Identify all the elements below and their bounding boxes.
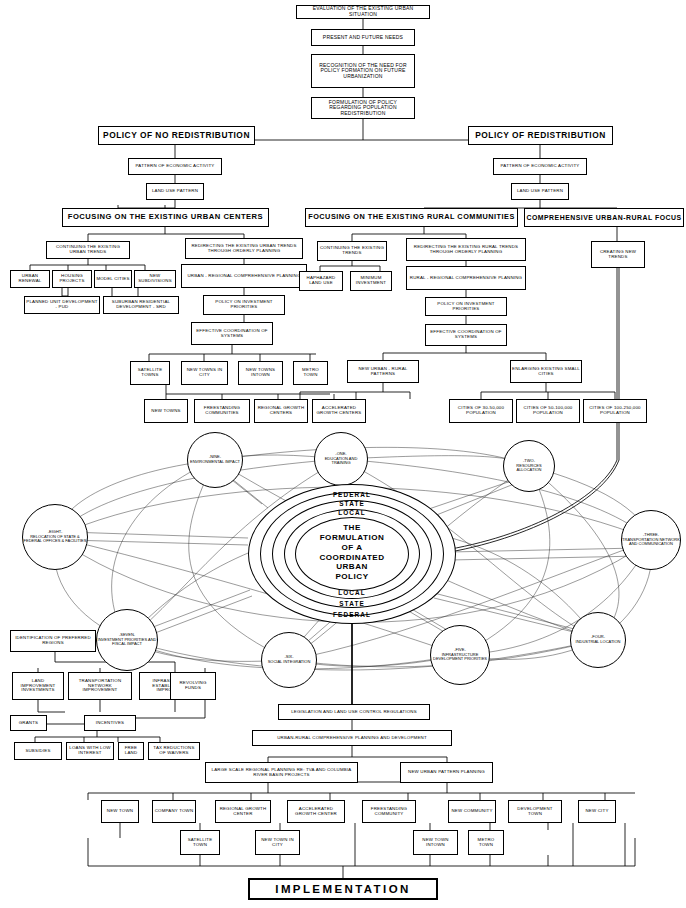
node-creating-new-trends: CREATING NEW TRENDS xyxy=(591,241,645,268)
node-new-towns-intown: NEW TOWNS INTOWN xyxy=(238,361,283,385)
core-label-federal-bottom: FEDERAL xyxy=(292,611,412,618)
node-metro-town: METRO TOWN xyxy=(293,361,328,385)
factor-six-label: SOCIAL INTEGRATION xyxy=(268,660,311,665)
core-title-line-3: OF A xyxy=(297,543,407,553)
core-label-state-top: STATE xyxy=(292,500,412,507)
node-tax-reductions-waivers: TAX REDUCTIONS OF WAIVERS xyxy=(148,742,200,760)
factor-eight-label: RELOCATION OF STATE & FEDERAL OFFICES & … xyxy=(23,535,87,545)
node-new-urban-pattern-planning: NEW URBAN PATTERN PLANNING xyxy=(400,762,493,783)
node-outcome-development-town: DEVELOPMENT TOWN xyxy=(508,800,562,823)
node-urban-renewal: URBAN RENEWAL xyxy=(10,270,50,288)
factor-nine-label: ENVIRONMENTAL IMPACT xyxy=(190,460,240,465)
node-suboutcome-new-town-intown: NEW TOWN INTOWN xyxy=(413,830,458,855)
node-rural-effective-coordination: EFFECTIVE COORDINATION OF SYSTEMS xyxy=(425,324,507,346)
factor-three-label: TRANSPORTATION NETWORK AND COMMUNICATION xyxy=(622,538,680,548)
node-rural-regional-planning: RURAL - REGIONAL COMPREHENSIVE PLANNING xyxy=(406,266,526,290)
node-redirecting-rural-trends: REDIRECTING THE EXISTING RURAL TRENDS TH… xyxy=(406,238,526,261)
node-urban-effective-coordination: EFFECTIVE COORDINATION OF SYSTEMS xyxy=(191,322,273,345)
factor-circle-seven: -SEVEN- INVESTMENT PRIORITIES AND FISCAL… xyxy=(96,609,158,671)
node-grants: GRANTS xyxy=(10,715,47,731)
node-outcome-regional-growth-center: REGIONAL GROWTH CENTER xyxy=(215,800,271,823)
node-accelerated-growth-centers: ACCELERATED GROWTH CENTERS xyxy=(312,399,366,423)
node-suboutcome-satellite-town: SATELLITE TOWN xyxy=(180,830,220,855)
node-recognition-need: RECOGNITION OF THE NEED FOR POLICY FORMA… xyxy=(311,54,415,88)
core-title-line-2: FORMULATION xyxy=(297,533,407,543)
node-pattern-economic-left: PATTERN OF ECONOMIC ACTIVITY xyxy=(128,158,222,175)
node-cities-50-100k: CITIES OF 50-100,000 POPULATION xyxy=(516,399,580,423)
core-title-line-6: POLICY xyxy=(297,572,407,582)
factor-four-label: INDUSTRIAL LOCATION xyxy=(576,640,621,645)
node-rural-policy-investment: POLICY ON INVESTMENT PRIORITIES xyxy=(425,297,507,316)
node-continuing-rural-trends: CONTINUING THE EXISTING TRENDS xyxy=(317,241,387,261)
node-new-towns: NEW TOWNS xyxy=(144,399,188,423)
node-identification-preferred-regions: IDENTIFICATION OF PREFERRED REGIONS xyxy=(10,630,96,652)
node-outcome-new-community: NEW COMMUNITY xyxy=(448,800,496,823)
factor-circle-nine: -NINE- ENVIRONMENTAL IMPACT xyxy=(187,432,243,488)
core-label-federal-top: FEDERAL xyxy=(292,491,412,498)
node-outcome-new-city: NEW CITY xyxy=(578,800,616,823)
node-legislation-land-use-control: LEGISLATION AND LAND USE CONTROL REGULAT… xyxy=(278,704,430,720)
node-free-land: FREE LAND xyxy=(118,742,144,760)
node-cities-30-50k: CITIES OF 30-50,000 POPULATION xyxy=(449,399,513,423)
node-policy-no-redistribution: POLICY OF NO REDISTRIBUTION xyxy=(98,126,255,145)
node-land-use-right: LAND USE PATTERN xyxy=(511,183,569,200)
node-revolving-funds: REVOLVING FUNDS xyxy=(170,672,216,700)
node-outcome-accelerated-growth-center: ACCELERATED GROWTH CENTER xyxy=(287,800,345,823)
node-urban-rural-comprehensive-planning: URBAN-RURAL COMPREHENSIVE PLANNING AND D… xyxy=(252,730,452,746)
node-policy-redistribution: POLICY OF REDISTRIBUTION xyxy=(468,126,613,145)
node-implementation: IMPLEMENTATION xyxy=(248,878,438,900)
node-model-cities: MODEL CITIES xyxy=(94,270,132,288)
node-haphazard-land-use: HAPHAZARD LAND USE xyxy=(299,271,343,291)
factor-one-label: EDUCATION AND TRAINING xyxy=(315,457,367,467)
factor-circle-one: -ONE- EDUCATION AND TRAINING xyxy=(314,432,368,486)
node-suboutcome-new-town-in-city: NEW TOWN IN CITY xyxy=(255,830,300,855)
node-focus-comprehensive: COMPREHENSIVE URBAN-RURAL FOCUS xyxy=(524,208,684,227)
node-minimum-investment: MINIMUM INVESTMENT xyxy=(350,271,392,291)
factor-circle-five: -FIVE- INFRASTRUCTURE DEVELOPMENT PRIORI… xyxy=(430,625,490,685)
core-label-local-bottom: LOCAL xyxy=(292,589,412,596)
node-continuing-urban-trends: CONTINUING THE EXISTING URBAN TRENDS xyxy=(46,241,130,259)
node-redirecting-urban-trends: REDIRECTING THE EXISTING URBAN TRENDS TH… xyxy=(185,238,303,259)
node-transportation-network-improvement: TRANSPORTATION NETWORK IMPROVEMENT xyxy=(68,672,132,700)
node-subsidies: SUBSIDIES xyxy=(14,742,62,760)
core-title-line-5: URBAN xyxy=(297,562,407,572)
core-title-line-1: THE xyxy=(297,523,407,533)
node-pattern-economic-right: PATTERN OF ECONOMIC ACTIVITY xyxy=(493,158,587,175)
node-focus-rural-communities: FOCUSING ON THE EXISTING RURAL COMMUNITI… xyxy=(305,208,518,227)
core-title: THE FORMULATION OF A COORDINATED URBAN P… xyxy=(297,523,407,582)
node-suboutcome-metro-town: METRO TOWN xyxy=(468,830,504,855)
node-satellite-towns: SATELLITE TOWNS xyxy=(130,361,170,385)
node-urban-regional-planning: URBAN - REGIONAL COMPREHENSIVE PLANNING xyxy=(181,264,307,288)
factor-circle-three: -THREE- TRANSPORTATION NETWORK AND COMMU… xyxy=(621,510,681,570)
node-new-subdivisions: NEW SUBDIVISIONS xyxy=(134,270,176,288)
factor-five-label: INFRASTRUCTURE DEVELOPMENT PRIORITIES xyxy=(431,653,489,663)
node-cities-100-250k: CITIES OF 100-250,000 POPULATION xyxy=(583,399,647,423)
factor-circle-two: -TWO- RESOURCES ALLOCATION xyxy=(503,440,555,492)
node-outcome-new-town: NEW TOWN xyxy=(101,800,139,823)
core-label-local-top: LOCAL xyxy=(292,509,412,516)
node-large-scale-regional-planning: LARGE SCALE REGIONAL PLANNING RE: TVA AN… xyxy=(205,762,358,783)
node-suburban-residential-development: SUBURBAN RESIDENTIAL DEVELOPMENT - SRD xyxy=(103,296,179,314)
node-regional-growth-centers: REGIONAL GROWTH CENTERS xyxy=(254,399,308,423)
core-title-line-4: COORDINATED xyxy=(297,553,407,563)
node-focus-urban-centers: FOCUSING ON THE EXISTING URBAN CENTERS xyxy=(62,208,269,227)
node-housing-projects: HOUSING PROJECTS xyxy=(52,270,92,288)
node-new-towns-in-city: NEW TOWNS IN CITY xyxy=(181,361,228,385)
node-planned-unit-development: PLANNED UNIT DEVELOPMENT - PUD xyxy=(24,296,100,314)
node-outcome-freestanding-community: FREESTANDING COMMUNITY xyxy=(362,800,416,823)
factor-seven-label: INVESTMENT PRIORITIES AND FISCAL IMPACT xyxy=(97,638,157,648)
node-freestanding-communities: FREESTANDING COMMUNITIES xyxy=(194,399,250,423)
node-land-improvement-investments: LAND IMPROVEMENT INVESTMENTS xyxy=(12,672,64,700)
core-label-state-bottom: STATE xyxy=(292,600,412,607)
node-incentives: INCENTIVES xyxy=(84,715,136,731)
factor-circle-six: -SIX- SOCIAL INTEGRATION xyxy=(261,632,317,688)
node-enlarging-small-cities: ENLARGING EXISTING SMALL CITIES xyxy=(510,360,582,383)
node-formulation-policy: FORMULATION OF POLICY REGARDING POPULATI… xyxy=(311,97,415,119)
urban-policy-flowchart: EVALUATION OF THE EXISTING URBAN SITUATI… xyxy=(0,0,686,908)
node-urban-policy-investment: POLICY ON INVESTMENT PRIORITIES xyxy=(203,295,285,315)
node-evaluation: EVALUATION OF THE EXISTING URBAN SITUATI… xyxy=(296,5,430,19)
node-loans-low-interest: LOANS WITH LOW INTEREST xyxy=(66,742,114,760)
node-outcome-company-town: COMPANY TOWN xyxy=(152,800,196,823)
factor-circle-eight: -EIGHT- RELOCATION OF STATE & FEDERAL OF… xyxy=(22,504,88,570)
factor-two-label: RESOURCES ALLOCATION xyxy=(504,464,554,474)
